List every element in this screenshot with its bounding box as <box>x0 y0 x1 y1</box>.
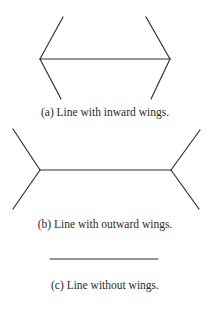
wing-line-a-3 <box>151 59 170 99</box>
wing-line-a-1 <box>40 59 61 99</box>
wing-line-b-1 <box>13 170 40 209</box>
caption-c: (c) Line without wings. <box>0 279 210 291</box>
wing-line-b-0 <box>13 129 40 170</box>
wing-line-a-2 <box>146 17 170 59</box>
wing-line-b-3 <box>171 170 199 209</box>
caption-b: (b) Line with outward wings. <box>0 218 210 230</box>
wing-line-a-0 <box>40 17 63 59</box>
figure-canvas <box>0 0 210 309</box>
wing-line-b-2 <box>171 130 200 170</box>
caption-a: (a) Line with inward wings. <box>0 106 210 118</box>
